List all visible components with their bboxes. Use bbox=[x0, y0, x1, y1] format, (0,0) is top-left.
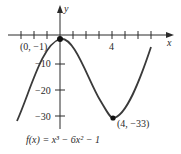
y-tick-label-neg30: −30 bbox=[35, 111, 51, 122]
annotation-local-min: (4, −33) bbox=[117, 118, 149, 130]
y-axis-label: y bbox=[63, 3, 69, 14]
y-tick-label-neg10: −10 bbox=[35, 58, 51, 69]
y-axis-arrow-icon bbox=[57, 5, 63, 13]
x-axis-label: x bbox=[166, 37, 172, 48]
cubic-function-graph: y x 4 −10 −20 −30 (0, −1) (4, −33) f(x) … bbox=[0, 0, 181, 154]
local-max-point bbox=[57, 36, 63, 42]
function-equation: f(x) = x³ − 6x² − 1 bbox=[26, 134, 100, 146]
y-tick-label-neg20: −20 bbox=[35, 85, 51, 96]
annotation-local-max: (0, −1) bbox=[20, 41, 47, 53]
x-tick-label-4: 4 bbox=[109, 41, 114, 52]
local-min-point bbox=[110, 115, 115, 120]
